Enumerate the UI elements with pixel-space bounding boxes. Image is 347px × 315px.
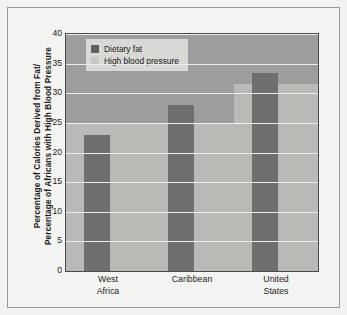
y-tick-label: 15	[52, 176, 62, 186]
y-tick-label: 25	[52, 117, 62, 127]
legend-label-dietary-fat: Dietary fat	[104, 44, 142, 54]
plot-area: Dietary fat High blood pressure	[65, 33, 319, 272]
y-tick-label: 35	[52, 58, 62, 68]
gridline	[66, 212, 318, 213]
chart-legend: Dietary fat High blood pressure	[86, 39, 188, 71]
gridline	[66, 153, 318, 154]
x-category-label: UnitedStates	[234, 274, 318, 297]
legend-swatch-dietary-fat	[91, 45, 99, 53]
gridline	[66, 34, 318, 35]
chart-figure: Percentage of Calories Derived from Fat/…	[0, 0, 347, 315]
legend-item-dietary-fat: Dietary fat	[91, 44, 179, 55]
x-category-label-line: West	[66, 274, 150, 286]
bar-dietary-fat	[84, 135, 109, 271]
y-tick-label: 10	[52, 206, 62, 216]
bar-dietary-fat	[168, 105, 193, 271]
gridline	[66, 123, 318, 124]
gridline	[66, 64, 318, 65]
x-category-label: WestAfrica	[66, 274, 150, 297]
x-category-label: Caribbean	[150, 274, 234, 286]
x-category-label-line: States	[234, 286, 318, 298]
gridline	[66, 182, 318, 183]
x-category-label-line: United	[234, 274, 318, 286]
y-tick-label: 20	[52, 147, 62, 157]
y-axis-tick-labels: 0510152025303540	[44, 28, 62, 274]
y-axis-title-line1: Percentage of Calories Derived from Fat/	[32, 64, 43, 228]
x-category-label-line: Africa	[66, 286, 150, 298]
y-tick-label: 30	[52, 87, 62, 97]
gridline	[66, 93, 318, 94]
y-tick-label: 40	[52, 28, 62, 38]
y-tick-label: 5	[57, 235, 62, 245]
x-category-label-line: Caribbean	[150, 274, 234, 286]
gridline	[66, 241, 318, 242]
x-axis-category-labels: WestAfricaCaribbeanUnitedStates	[66, 274, 318, 308]
y-tick-label: 0	[57, 265, 62, 275]
